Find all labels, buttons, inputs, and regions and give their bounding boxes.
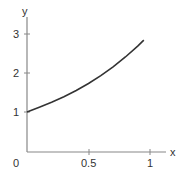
y-tick-label-2: 2 — [13, 67, 19, 79]
y-axis-label: y — [22, 5, 28, 17]
y-tick-label-1: 1 — [13, 106, 19, 118]
x-tick-label-1: 1 — [147, 157, 153, 169]
chart: y 3 2 1 0 0.5 1 x — [0, 0, 186, 177]
y-tick-label-3: 3 — [13, 28, 19, 40]
data-curve — [27, 40, 144, 112]
x-tick-label-0.5: 0.5 — [81, 157, 96, 169]
origin-label: 0 — [13, 157, 19, 169]
x-axis-label: x — [170, 146, 176, 158]
